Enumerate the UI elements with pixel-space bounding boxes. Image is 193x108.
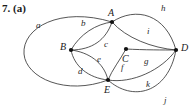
vertex-label-D: D — [180, 42, 189, 53]
vertex-label-B: B — [60, 41, 66, 52]
vertex-label-E: E — [103, 84, 110, 95]
multigraph-figure: abcdefghijk ABCDE — [0, 0, 193, 108]
edge-e — [71, 50, 108, 80]
edge-label-g: g — [144, 56, 149, 66]
edge-d — [71, 50, 108, 80]
edge-label-d: d — [78, 66, 83, 76]
edge-label-j: j — [163, 95, 167, 105]
vertex-label-A: A — [107, 7, 115, 18]
edge-label-a: a — [36, 20, 41, 30]
edge-j — [108, 50, 176, 92]
vertex-label-C: C — [122, 53, 129, 64]
edge-h — [112, 14, 176, 50]
vertex-C — [124, 47, 128, 51]
vertices-group — [69, 20, 178, 82]
edge-i — [112, 22, 176, 50]
edge-label-e: e — [97, 54, 101, 64]
edge-label-i: i — [147, 26, 150, 36]
vertex-A — [110, 20, 114, 24]
edge-label-h: h — [161, 3, 166, 13]
vertex-B — [69, 48, 73, 52]
edge-label-k: k — [146, 79, 151, 89]
vertex-D — [174, 48, 178, 52]
edge-label-b: b — [81, 18, 86, 28]
figure-page: 7. (a) abcdefghijk ABCDE — [0, 0, 193, 108]
edges-group — [24, 14, 176, 92]
vertex-E — [106, 78, 110, 82]
edge-label-c: c — [104, 39, 108, 49]
